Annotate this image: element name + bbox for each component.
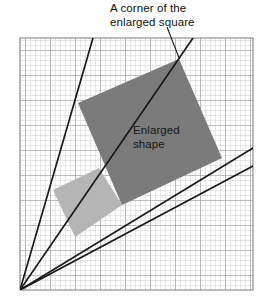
callout-label-line1: A corner of the [110, 2, 186, 14]
callout-label: A corner of the enlarged square [110, 2, 260, 29]
callout-label-line2: enlarged square [110, 16, 260, 30]
enlargement-figure: A corner of the enlarged square Enlarged… [0, 0, 267, 304]
diagram-canvas [0, 0, 267, 304]
enlarged-shape-label-line1: Enlarged [133, 124, 180, 136]
enlarged-shape-label: Enlarged shape [133, 124, 180, 151]
enlarged-shape-label-line2: shape [133, 138, 180, 152]
